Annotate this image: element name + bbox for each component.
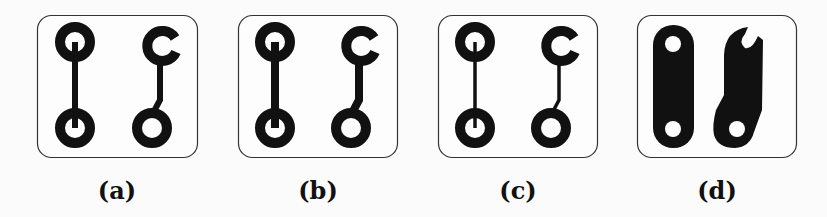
panel-c: (c): [401, 0, 601, 217]
panel-label: (a): [37, 176, 197, 205]
panel-d: (d): [600, 0, 800, 217]
panel-label: (c): [438, 176, 598, 205]
panel-b: (b): [201, 0, 401, 217]
panel-a: (a): [0, 0, 200, 217]
panel-label: (d): [637, 176, 797, 205]
panel-label: (b): [238, 176, 398, 205]
